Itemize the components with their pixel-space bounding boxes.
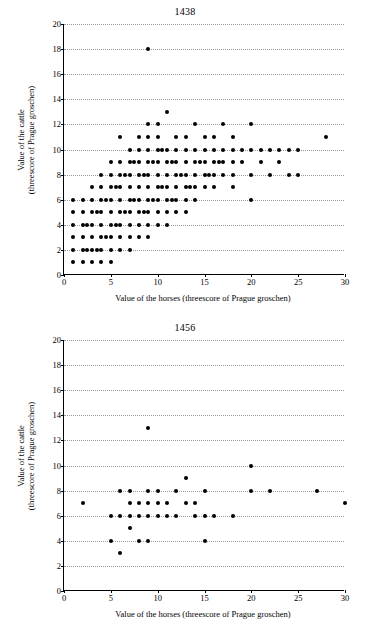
data-point (137, 514, 141, 518)
data-point (198, 160, 202, 164)
data-point (193, 160, 197, 164)
data-point (99, 185, 103, 189)
data-point (249, 489, 253, 493)
data-point (109, 248, 113, 252)
data-point (104, 235, 108, 239)
data-point (118, 223, 122, 227)
plot-area-1456: 02468101214161820051015202530 (63, 340, 344, 591)
data-point (165, 514, 169, 518)
data-point (324, 135, 328, 139)
data-point (118, 210, 122, 214)
data-point (343, 501, 347, 505)
data-point (146, 501, 150, 505)
gridline-y (64, 466, 344, 467)
gridline-y (64, 74, 344, 75)
data-point (118, 489, 122, 493)
data-point (231, 514, 235, 518)
data-point (137, 148, 141, 152)
data-point (81, 501, 85, 505)
x-tick-label: 20 (247, 593, 256, 603)
data-point (174, 135, 178, 139)
data-point (156, 210, 160, 214)
y-axis-label-1438: Value of the cattle (threescore of Pragu… (16, 25, 36, 255)
chart-title-1456: 1456 (0, 322, 370, 333)
y-tick-label: 12 (53, 435, 65, 445)
data-point (203, 148, 207, 152)
data-point (179, 173, 183, 177)
data-point (193, 501, 197, 505)
data-point (146, 135, 150, 139)
data-point (203, 539, 207, 543)
data-point (249, 148, 253, 152)
data-point (128, 501, 132, 505)
data-point (71, 260, 75, 264)
data-point (90, 260, 94, 264)
gridline-y (64, 415, 344, 416)
x-axis-label-1438: Value of the horses (threescore of Pragu… (63, 293, 343, 303)
data-point (259, 148, 263, 152)
y-tick-label: 6 (57, 511, 64, 521)
y-tick-label: 14 (53, 94, 65, 104)
data-point (156, 185, 160, 189)
data-point (109, 210, 113, 214)
data-point (118, 198, 122, 202)
gridline-y (64, 124, 344, 125)
data-point (118, 185, 122, 189)
data-point (81, 248, 85, 252)
data-point (146, 210, 150, 214)
data-point (165, 110, 169, 114)
data-point (231, 185, 235, 189)
gridline-y (64, 49, 344, 50)
chart-panel-1456: 1456 Value of the cattle (threescore of … (0, 316, 370, 632)
data-point (165, 185, 169, 189)
data-point (193, 198, 197, 202)
data-point (132, 160, 136, 164)
x-tick-label: 10 (153, 277, 162, 287)
data-point (207, 173, 211, 177)
x-tick-label: 30 (341, 277, 350, 287)
data-point (259, 160, 263, 164)
data-point (165, 210, 169, 214)
data-point (151, 198, 155, 202)
data-point (128, 173, 132, 177)
data-point (90, 185, 94, 189)
data-point (203, 489, 207, 493)
data-point (95, 248, 99, 252)
data-point (146, 160, 150, 164)
x-axis-label-1456: Value of the horses (threescore of Pragu… (63, 609, 343, 619)
data-point (156, 160, 160, 164)
data-point (128, 248, 132, 252)
data-point (184, 135, 188, 139)
y-tick-label: 16 (53, 69, 65, 79)
data-point (118, 551, 122, 555)
data-point (296, 148, 300, 152)
data-point (118, 160, 122, 164)
data-point (184, 148, 188, 152)
data-point (109, 235, 113, 239)
data-point (221, 148, 225, 152)
data-point (221, 122, 225, 126)
x-tick-label: 0 (62, 593, 66, 603)
data-point (193, 148, 197, 152)
x-tick-label: 0 (62, 277, 66, 287)
data-point (146, 489, 150, 493)
data-point (231, 135, 235, 139)
data-point (109, 185, 113, 189)
data-point (128, 489, 132, 493)
data-point (118, 135, 122, 139)
data-point (193, 122, 197, 126)
data-point (71, 210, 75, 214)
data-point (156, 122, 160, 126)
data-point (165, 501, 169, 505)
data-point (156, 501, 160, 505)
data-point (114, 185, 118, 189)
data-point (90, 198, 94, 202)
data-point (146, 173, 150, 177)
data-point (240, 148, 244, 152)
data-point (184, 210, 188, 214)
data-point (146, 539, 150, 543)
data-point (99, 198, 103, 202)
data-point (212, 148, 216, 152)
data-point (146, 148, 150, 152)
data-point (146, 426, 150, 430)
